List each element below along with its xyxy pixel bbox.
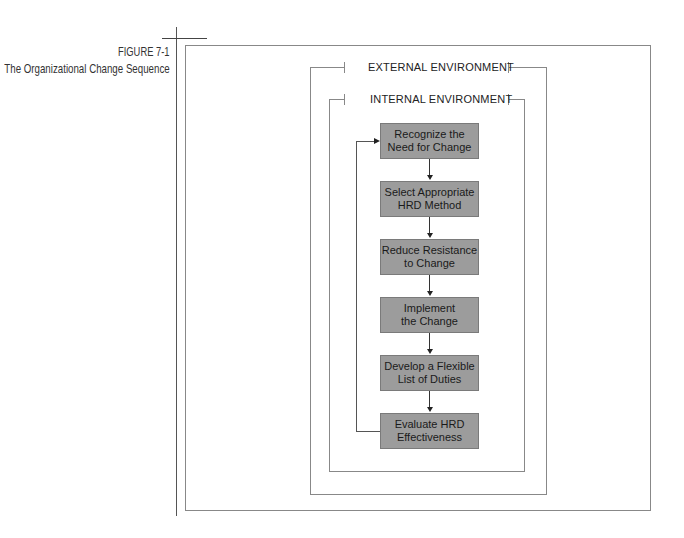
caption-vertical-rule — [176, 27, 177, 516]
arrow-down-icon — [427, 175, 433, 180]
figure-title: The Organizational Change Sequence — [5, 61, 170, 76]
step-select-method: Select Appropriate HRD Method — [380, 181, 479, 217]
arrow-down-icon — [427, 291, 433, 296]
connector-line — [429, 333, 430, 350]
arrow-right-icon — [374, 138, 380, 144]
connector-line — [429, 275, 430, 292]
step-reduce-resistance: Reduce Resistance to Change — [380, 239, 479, 275]
step-implement-change: Implement the Change — [380, 297, 479, 333]
arrow-down-icon — [427, 407, 433, 412]
step-recognize-need: Recognize the Need for Change — [380, 123, 479, 159]
step-evaluate-effectiveness: Evaluate HRD Effectiveness — [380, 413, 479, 449]
connector-line — [429, 217, 430, 234]
internal-environment-label: INTERNAL ENVIRONMENT — [370, 93, 512, 105]
connector-line — [429, 391, 430, 408]
connector-line — [429, 159, 430, 176]
figure-number: FIGURE 7-1 — [119, 44, 170, 59]
arrow-down-icon — [427, 349, 433, 354]
caption-horizontal-rule — [162, 38, 207, 39]
external-environment-label: EXTERNAL ENVIRONMENT — [368, 61, 514, 73]
arrow-down-icon — [427, 233, 433, 238]
step-develop-duties: Develop a Flexible List of Duties — [380, 355, 479, 391]
